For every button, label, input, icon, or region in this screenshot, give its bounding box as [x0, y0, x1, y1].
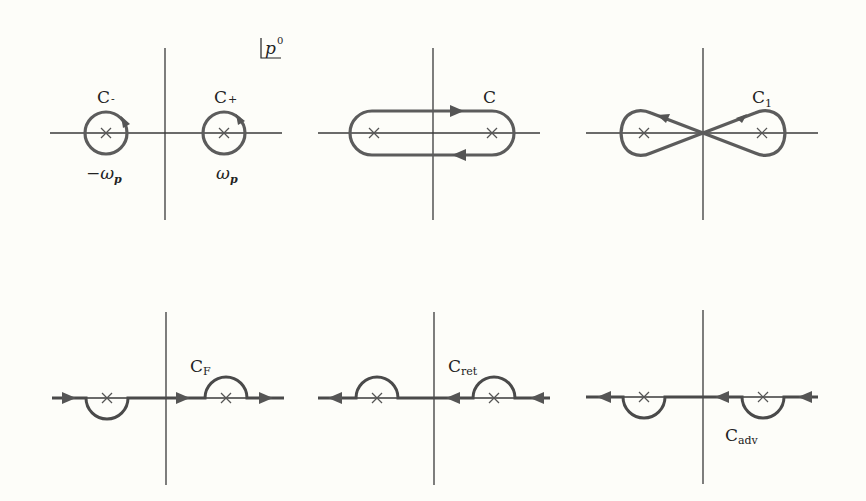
arrow-icon	[62, 392, 76, 404]
panel-advanced: Cadv	[586, 310, 818, 484]
arrow-icon	[446, 392, 460, 404]
svg-text:p: p	[265, 38, 276, 58]
panel-retarded: Cret	[318, 312, 550, 485]
label-c1: C1	[752, 87, 772, 110]
label-neg-omega-p: −ωp	[86, 163, 122, 186]
arrow-icon	[715, 391, 729, 403]
contour-cf	[52, 377, 284, 419]
label-c-plus: C+	[214, 87, 237, 107]
label-c-minus: C-	[97, 87, 115, 107]
label-omega-p: ωp	[216, 163, 238, 186]
label-c: C	[483, 87, 496, 107]
arrow-icon	[176, 392, 190, 404]
panel-figure-eight: C1	[586, 48, 818, 220]
panel-circles: p 0 C- −ωp C+ ωp	[50, 35, 283, 220]
arrow-icon	[597, 391, 611, 403]
label-cf: CF	[190, 356, 211, 378]
label-cadv: Cadv	[725, 425, 759, 447]
panel-feynman: CF	[52, 312, 284, 485]
arrow-icon	[736, 114, 747, 123]
panel-enclosing: C	[318, 48, 540, 220]
variable-label-p0: p 0	[261, 35, 283, 58]
arrow-icon	[530, 392, 544, 404]
arrow-icon	[452, 149, 466, 161]
arrow-icon	[798, 391, 812, 403]
arrow-icon	[121, 116, 130, 128]
arrow-icon	[450, 105, 464, 117]
svg-text:0: 0	[277, 35, 283, 46]
arrow-icon	[259, 392, 273, 404]
arrow-icon	[328, 392, 342, 404]
contour-diagram: p 0 C- −ωp C+ ωp	[0, 0, 866, 501]
contour-cadv	[586, 397, 818, 418]
label-cret: Cret	[448, 356, 478, 378]
